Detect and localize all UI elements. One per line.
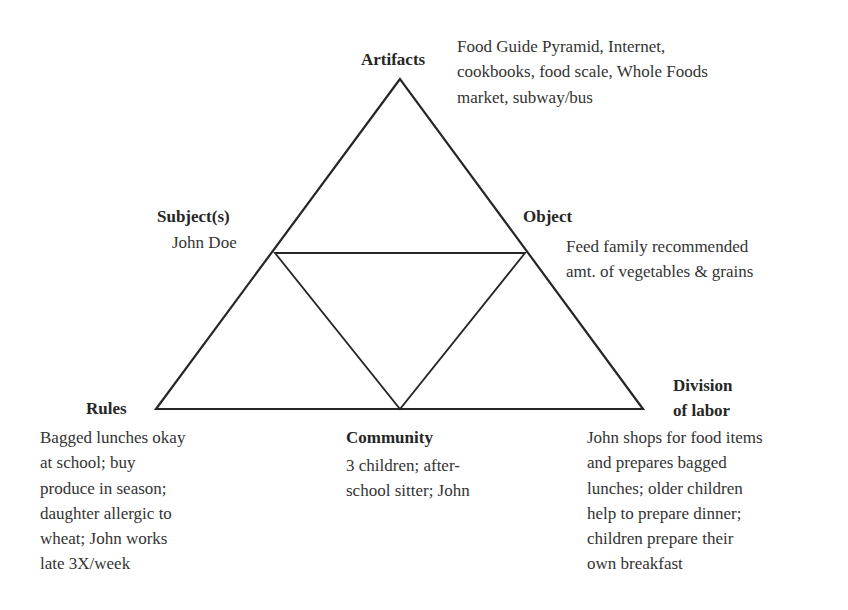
inner-triangle — [275, 253, 525, 409]
rules-description-line: produce in season; — [40, 476, 185, 501]
community-description-line: 3 children; after- — [346, 453, 470, 478]
division-of-labor-description-line: and prepares bagged — [587, 450, 763, 475]
rules-description: Bagged lunches okay at school; buy produ… — [40, 425, 185, 577]
division-of-labor-label: Division of labor — [673, 373, 733, 423]
rules-label: Rules — [86, 396, 127, 421]
rules-description-line: at school; buy — [40, 450, 185, 475]
rules-description-line: daughter allergic to — [40, 501, 185, 526]
object-description-line: Feed family recommended — [566, 234, 753, 259]
artifacts-label: Artifacts — [361, 47, 425, 72]
object-label: Object — [523, 204, 572, 229]
rules-description-line: Bagged lunches okay — [40, 425, 185, 450]
object-description-line: amt. of vegetables & grains — [566, 259, 753, 284]
subject-description: John Doe — [172, 230, 237, 255]
division-of-labor-label-line: Division — [673, 373, 733, 398]
rules-description-line: late 3X/week — [40, 551, 185, 576]
artifacts-description-line: cookbooks, food scale, Whole Foods — [457, 59, 708, 84]
division-of-labor-description-line: lunches; older children — [587, 476, 763, 501]
division-of-labor-description-line: children prepare their — [587, 526, 763, 551]
community-label: Community — [346, 425, 433, 450]
object-description: Feed family recommended amt. of vegetabl… — [566, 234, 753, 285]
division-of-labor-description-line: John shops for food items — [587, 425, 763, 450]
rules-description-line: wheat; John works — [40, 526, 185, 551]
division-of-labor-description-line: own breakfast — [587, 551, 763, 576]
division-of-labor-description: John shops for food items and prepares b… — [587, 425, 763, 577]
community-description-line: school sitter; John — [346, 478, 470, 503]
artifacts-description-line: market, subway/bus — [457, 85, 708, 110]
subject-label: Subject(s) — [157, 204, 230, 229]
division-of-labor-description-line: help to prepare dinner; — [587, 501, 763, 526]
artifacts-description-line: Food Guide Pyramid, Internet, — [457, 34, 708, 59]
division-of-labor-label-line: of labor — [673, 398, 733, 423]
community-description: 3 children; after- school sitter; John — [346, 453, 470, 504]
activity-theory-diagram: Artifacts Food Guide Pyramid, Internet, … — [0, 0, 848, 610]
subject-description-line: John Doe — [172, 230, 237, 255]
artifacts-description: Food Guide Pyramid, Internet, cookbooks,… — [457, 34, 708, 110]
